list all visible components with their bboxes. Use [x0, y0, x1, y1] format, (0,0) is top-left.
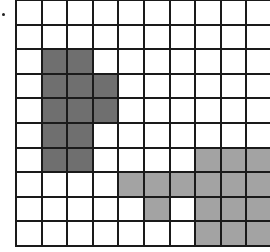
dark-shape-cell [67, 49, 93, 74]
light-shape-cell [246, 172, 270, 197]
dark-shape-cell [42, 49, 68, 74]
light-shape-cell [144, 197, 170, 222]
light-shape-cell [195, 197, 221, 222]
grid-line-vertical [220, 0, 222, 247]
grid-line-vertical [66, 0, 68, 247]
grid-line-vertical [117, 0, 119, 247]
grid-line-vertical [92, 0, 94, 247]
dark-shape-cell [67, 74, 93, 99]
dark-shape-cell [42, 74, 68, 99]
light-shape-cell [195, 221, 221, 246]
dark-shape-cell [67, 98, 93, 123]
light-shape-cell [221, 221, 247, 246]
light-shape-cell [221, 148, 247, 173]
dark-shape-cell [93, 98, 119, 123]
light-shape-cell [195, 172, 221, 197]
light-shape-cell [246, 197, 270, 222]
light-shape-cell [246, 148, 270, 173]
light-shape-cell [221, 172, 247, 197]
light-shape-cell [195, 148, 221, 173]
dark-shape-cell [42, 98, 68, 123]
grid-line-vertical [143, 0, 145, 247]
light-shape-cell [144, 172, 170, 197]
dark-shape-cell [42, 148, 68, 173]
dark-shape-cell [42, 123, 68, 148]
light-shape-cell [246, 221, 270, 246]
grid-line-vertical [41, 0, 43, 247]
grid-line-vertical [194, 0, 196, 247]
light-shape-cell [118, 172, 144, 197]
dark-shape-cell [93, 74, 119, 99]
dark-shape-cell [67, 123, 93, 148]
grid-line-vertical [169, 0, 171, 247]
grid-line-vertical [15, 0, 17, 247]
grid-line-vertical [245, 0, 247, 247]
dark-shape-cell [67, 148, 93, 173]
light-shape-cell [221, 197, 247, 222]
light-shape-cell [170, 172, 196, 197]
bullet-marker [2, 13, 5, 16]
